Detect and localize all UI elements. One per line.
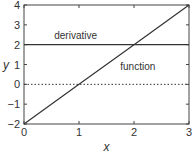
x-tick-label: 1 [76,126,82,138]
chart: 0123−2−101234derivativefunctionxy [0,0,195,153]
x-tick-label: 0 [21,126,27,138]
y-tick-label: −1 [7,98,20,110]
y-tick-label: 3 [14,19,20,31]
y-tick-label: 2 [14,39,20,51]
annotation-derivative: derivative [54,30,97,41]
x-tick-label: 3 [186,126,192,138]
y-axis-label: y [2,58,10,72]
y-tick-label: −2 [7,118,20,130]
x-tick-label: 2 [131,126,137,138]
annotation-function: function [120,61,155,72]
y-tick-label: 1 [14,59,20,71]
y-tick-label: 0 [14,78,20,90]
x-axis-label: x [103,140,111,153]
series-function [24,5,189,124]
y-tick-label: 4 [14,0,20,11]
